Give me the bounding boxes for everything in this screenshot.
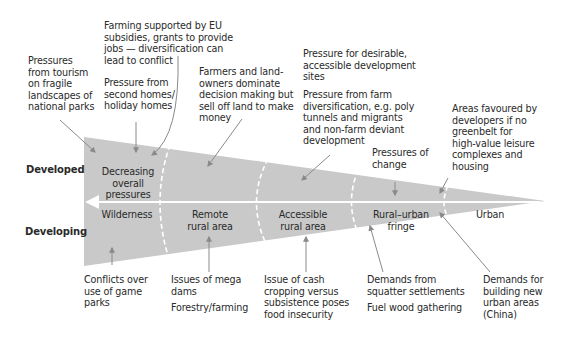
zone-urban: Urban <box>476 209 504 221</box>
note-forestry: Forestry/farming <box>171 302 248 314</box>
note-second-homes: Pressure from second homes/ holiday home… <box>104 77 175 112</box>
note-desirable-sites: Pressure for desirable, accessible devel… <box>303 48 416 83</box>
zone-wilderness: Wilderness <box>92 209 162 221</box>
note-tourism: Pressures from tourism on fragile landsc… <box>28 55 94 113</box>
note-fuel-wood: Fuel wood gathering <box>367 302 462 314</box>
zone-accessible-rural: Accessible rural area <box>268 209 338 232</box>
zone-rural-urban-fringe: Rural–urban fringe <box>366 209 436 232</box>
note-eu-subsidies: Farming supported by EU subsidies, grant… <box>104 20 233 66</box>
note-squatter: Demands from squatter settlements <box>367 274 465 297</box>
row-label-developing: Developing <box>25 226 87 238</box>
note-developers: Areas favoured by developers if no green… <box>452 103 537 173</box>
decreasing-pressures-label: Decreasing overall pressures <box>92 166 164 201</box>
note-china: Demands for building new urban areas (Ch… <box>483 274 543 320</box>
zone-remote-rural: Remote rural area <box>175 209 245 232</box>
note-mega-dams: Issues of mega dams <box>171 274 241 297</box>
note-farmers: Farmers and land- owners dominate decisi… <box>199 66 294 124</box>
note-farm-diversification: Pressure from farm diversification, e.g.… <box>303 89 414 147</box>
note-game-parks: Conflicts over use of game parks <box>84 274 148 309</box>
note-cash-cropping: Issue of cash cropping versus subsistenc… <box>264 274 349 320</box>
pressures-of-change-label: Pressures of change <box>372 147 428 170</box>
row-label-developed: Developed <box>26 164 84 176</box>
